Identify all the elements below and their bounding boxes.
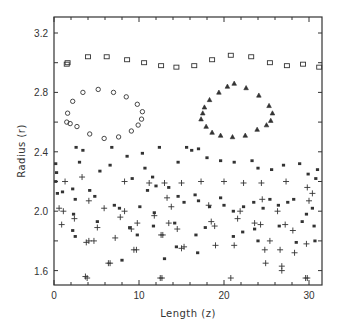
asterisk-marker-icon bbox=[182, 201, 185, 204]
y-tick-label: 1.6 bbox=[34, 266, 48, 277]
asterisk-marker-icon bbox=[163, 257, 166, 260]
asterisk-marker-icon bbox=[72, 213, 75, 216]
asterisk-marker-icon bbox=[219, 196, 222, 199]
asterisk-marker-icon bbox=[113, 204, 116, 207]
x-tick-label: 20 bbox=[218, 290, 230, 301]
asterisk-marker-icon bbox=[74, 235, 77, 238]
asterisk-marker-icon bbox=[256, 167, 259, 170]
asterisk-marker-icon bbox=[205, 156, 208, 159]
asterisk-marker-icon bbox=[88, 189, 91, 192]
asterisk-marker-icon bbox=[93, 195, 96, 198]
y-tick-label: 2.0 bbox=[34, 206, 48, 217]
asterisk-marker-icon bbox=[219, 159, 222, 162]
asterisk-marker-icon bbox=[197, 199, 200, 202]
y-tick-label: 2.4 bbox=[34, 147, 48, 158]
asterisk-marker-icon bbox=[110, 146, 113, 149]
asterisk-marker-icon bbox=[252, 201, 255, 204]
asterisk-marker-icon bbox=[154, 185, 157, 188]
asterisk-marker-icon bbox=[54, 180, 57, 183]
asterisk-marker-icon bbox=[277, 204, 280, 207]
chart-background bbox=[0, 0, 340, 333]
asterisk-marker-icon bbox=[74, 198, 77, 201]
asterisk-marker-icon bbox=[307, 173, 310, 176]
asterisk-marker-icon bbox=[232, 235, 235, 238]
scatter-chart: 0102030 1.62.02.42.83.2 Length (z) Radiu… bbox=[0, 0, 340, 333]
asterisk-marker-icon bbox=[56, 192, 59, 195]
asterisk-marker-icon bbox=[151, 176, 154, 179]
asterisk-marker-icon bbox=[98, 170, 101, 173]
asterisk-marker-icon bbox=[313, 240, 316, 243]
asterisk-marker-icon bbox=[222, 204, 225, 207]
asterisk-marker-icon bbox=[152, 225, 155, 228]
asterisk-marker-icon bbox=[262, 207, 265, 210]
asterisk-marker-icon bbox=[278, 225, 281, 228]
asterisk-marker-icon bbox=[109, 164, 112, 167]
asterisk-marker-icon bbox=[136, 234, 139, 237]
asterisk-marker-icon bbox=[75, 146, 78, 149]
asterisk-marker-icon bbox=[131, 177, 134, 180]
asterisk-marker-icon bbox=[286, 201, 289, 204]
asterisk-marker-icon bbox=[55, 171, 58, 174]
asterisk-marker-icon bbox=[314, 177, 317, 180]
asterisk-marker-icon bbox=[311, 207, 314, 210]
asterisk-marker-icon bbox=[268, 198, 271, 201]
asterisk-marker-icon bbox=[126, 155, 129, 158]
asterisk-marker-icon bbox=[173, 222, 176, 225]
x-tick-label: 30 bbox=[303, 290, 315, 301]
x-axis-label: Length (z) bbox=[160, 308, 216, 319]
asterisk-marker-icon bbox=[128, 226, 131, 229]
asterisk-marker-icon bbox=[250, 159, 253, 162]
asterisk-marker-icon bbox=[177, 195, 180, 198]
asterisk-marker-icon bbox=[197, 147, 200, 150]
y-axis-label: Radius (r) bbox=[16, 124, 27, 178]
asterisk-marker-icon bbox=[138, 205, 141, 208]
y-tick-label: 3.2 bbox=[34, 28, 48, 39]
asterisk-marker-icon bbox=[298, 162, 301, 165]
asterisk-marker-icon bbox=[194, 193, 197, 196]
asterisk-marker-icon bbox=[282, 164, 285, 167]
asterisk-marker-icon bbox=[204, 226, 207, 229]
asterisk-marker-icon bbox=[61, 190, 64, 193]
asterisk-marker-icon bbox=[96, 220, 99, 223]
asterisk-marker-icon bbox=[242, 205, 245, 208]
asterisk-marker-icon bbox=[175, 245, 178, 248]
asterisk-marker-icon bbox=[270, 168, 273, 171]
asterisk-marker-icon bbox=[232, 210, 235, 213]
asterisk-marker-icon bbox=[233, 161, 236, 164]
asterisk-marker-icon bbox=[196, 251, 199, 254]
asterisk-marker-icon bbox=[143, 167, 146, 170]
asterisk-marker-icon bbox=[316, 168, 319, 171]
asterisk-marker-icon bbox=[120, 259, 123, 262]
x-tick-label: 0 bbox=[51, 290, 57, 301]
x-tick-label: 10 bbox=[133, 290, 145, 301]
asterisk-marker-icon bbox=[295, 241, 298, 244]
asterisk-marker-icon bbox=[71, 188, 74, 191]
asterisk-marker-icon bbox=[54, 162, 57, 165]
asterisk-marker-icon bbox=[177, 161, 180, 164]
asterisk-marker-icon bbox=[118, 207, 121, 210]
asterisk-marker-icon bbox=[253, 228, 256, 231]
y-tick-label: 2.8 bbox=[34, 87, 48, 98]
asterisk-marker-icon bbox=[292, 198, 295, 201]
asterisk-marker-icon bbox=[158, 146, 161, 149]
asterisk-marker-icon bbox=[71, 229, 74, 232]
asterisk-marker-icon bbox=[301, 220, 304, 223]
asterisk-marker-icon bbox=[241, 231, 244, 234]
asterisk-marker-icon bbox=[167, 186, 170, 189]
asterisk-marker-icon bbox=[78, 161, 81, 164]
asterisk-marker-icon bbox=[256, 240, 259, 243]
asterisk-marker-icon bbox=[146, 189, 149, 192]
asterisk-marker-icon bbox=[190, 149, 193, 152]
asterisk-marker-icon bbox=[81, 149, 84, 152]
asterisk-marker-icon bbox=[194, 234, 197, 237]
asterisk-marker-icon bbox=[313, 225, 316, 228]
asterisk-marker-icon bbox=[185, 146, 188, 149]
asterisk-marker-icon bbox=[305, 213, 308, 216]
asterisk-marker-icon bbox=[141, 152, 144, 155]
